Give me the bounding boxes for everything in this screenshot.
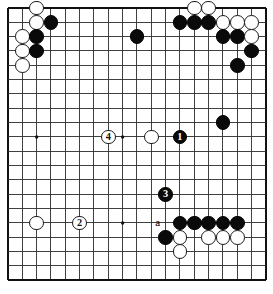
stone-black[interactable]	[173, 15, 188, 30]
stone-white[interactable]	[173, 230, 188, 245]
stone-black[interactable]	[44, 15, 59, 30]
stone-move-number: 2	[73, 217, 86, 230]
stone-move-number: 4	[102, 131, 115, 144]
stone-black[interactable]	[201, 15, 216, 30]
stone-black[interactable]	[244, 44, 259, 59]
stone-black[interactable]	[158, 230, 173, 245]
stone-white[interactable]	[15, 58, 30, 73]
stone-white[interactable]	[244, 29, 259, 44]
board-marker-letter: a	[151, 216, 165, 230]
stone-white[interactable]	[173, 244, 188, 259]
stone-white[interactable]	[230, 230, 245, 245]
stone-move-1[interactable]: 1	[173, 130, 188, 145]
stone-move-2[interactable]: 2	[72, 216, 87, 231]
star-point	[121, 135, 124, 138]
star-point	[121, 221, 124, 224]
go-board-diagram: 1432 a	[0, 0, 273, 294]
stone-black[interactable]	[230, 216, 245, 231]
stone-white[interactable]	[201, 1, 216, 16]
stone-white[interactable]	[244, 15, 259, 30]
stone-white[interactable]	[187, 1, 202, 16]
stone-white[interactable]	[29, 1, 44, 16]
stone-black[interactable]	[230, 29, 245, 44]
stone-white[interactable]	[15, 44, 30, 59]
stone-white[interactable]	[230, 15, 245, 30]
stone-black[interactable]	[201, 216, 216, 231]
stone-black[interactable]	[216, 29, 231, 44]
stone-move-3[interactable]: 3	[158, 187, 173, 202]
stone-white[interactable]	[216, 15, 231, 30]
stone-white[interactable]	[29, 15, 44, 30]
stone-black[interactable]	[187, 216, 202, 231]
stone-black[interactable]	[130, 29, 145, 44]
stone-move-number: 3	[159, 188, 172, 201]
stone-black[interactable]	[29, 29, 44, 44]
stone-white[interactable]	[201, 230, 216, 245]
stone-black[interactable]	[29, 44, 44, 59]
stone-white[interactable]	[144, 130, 159, 145]
stone-black[interactable]	[187, 15, 202, 30]
star-point	[35, 135, 38, 138]
stone-white[interactable]	[29, 216, 44, 231]
stone-move-number: 1	[174, 131, 187, 144]
goban-grid[interactable]	[0, 0, 273, 294]
stone-black[interactable]	[216, 115, 231, 130]
stone-white[interactable]	[15, 29, 30, 44]
stone-move-4[interactable]: 4	[101, 130, 116, 145]
stone-white[interactable]	[216, 230, 231, 245]
stone-black[interactable]	[230, 58, 245, 73]
